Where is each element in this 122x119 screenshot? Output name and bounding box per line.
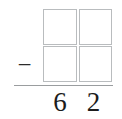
subtraction-worksheet: − 6 2 [0,0,122,119]
minus-operator-icon: − [16,55,33,75]
equation-horizontal-rule [14,85,113,86]
answer-box-top-right[interactable] [79,9,112,45]
answer-box-top-left[interactable] [43,9,77,45]
result-digit-ones: 2 [77,88,110,117]
result-digit-tens: 6 [43,88,77,117]
answer-box-bottom-left[interactable] [43,46,77,82]
result-digit-row: 6 2 [43,88,112,117]
answer-box-bottom-right[interactable] [79,46,112,82]
